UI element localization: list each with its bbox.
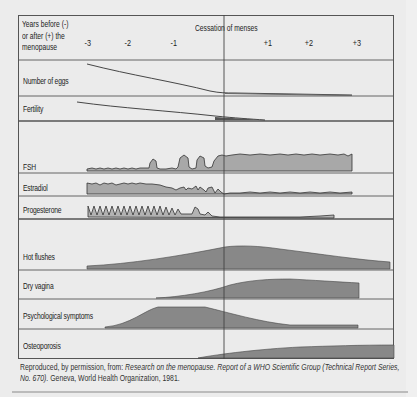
tick-plus-3: +3 bbox=[353, 38, 361, 48]
osteoporosis-area bbox=[198, 345, 394, 358]
center-title: Cessation of menses bbox=[195, 24, 258, 33]
progesterone-area bbox=[88, 206, 334, 218]
tick-minus-1: -1 bbox=[171, 38, 177, 48]
x-axis-label: Years before (-) or after (+) the menopa… bbox=[22, 19, 68, 54]
tick-plus-2: +2 bbox=[305, 38, 313, 48]
document-page: Years before (-) or after (+) the menopa… bbox=[0, 0, 406, 397]
caption-prefix: Reproduced, by permission, from: bbox=[20, 363, 125, 372]
row-label-fsh: FSH bbox=[23, 163, 36, 172]
row-label-fertility: Fertility bbox=[23, 105, 43, 114]
chart-plot bbox=[0, 0, 417, 397]
row-label-osteoporosis: Osteoporosis bbox=[23, 342, 61, 351]
page-divider bbox=[12, 391, 408, 393]
fertility-curve bbox=[77, 102, 265, 120]
row-label-eggs: Number of eggs bbox=[23, 77, 68, 86]
tick-minus-3: -3 bbox=[85, 38, 91, 48]
row-label-hot-flushes: Hot flushes bbox=[23, 253, 55, 262]
hot-flushes-area bbox=[87, 246, 390, 269]
estradiol-area bbox=[87, 183, 352, 194]
psych-area bbox=[105, 307, 358, 328]
fsh-area bbox=[87, 154, 352, 171]
eggs-curve bbox=[87, 64, 352, 95]
dry-vagina-area bbox=[156, 279, 359, 298]
figure-caption: Reproduced, by permission, from: Researc… bbox=[20, 362, 406, 384]
row-label-estradiol: Estradiol bbox=[23, 184, 48, 193]
row-label-dry-vagina: Dry vagina bbox=[23, 282, 53, 291]
caption-suffix: Geneva, World Health Organization, 1981. bbox=[48, 374, 179, 383]
row-label-psychological: Psychological symptoms bbox=[23, 312, 93, 321]
row-label-progesterone: Progesterone bbox=[23, 206, 61, 215]
tick-minus-2: -2 bbox=[125, 38, 131, 48]
tick-plus-1: +1 bbox=[264, 38, 272, 48]
